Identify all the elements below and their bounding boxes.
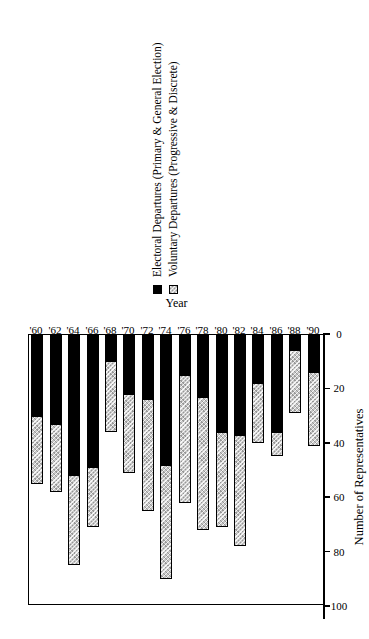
bar-group-86 [271, 334, 283, 639]
legend-swatch-hatch [169, 285, 178, 294]
bar-segment-electoral [197, 334, 209, 397]
bar-group-70 [123, 334, 135, 639]
legend-label-2: Voluntary Departures (Progressive & Disc… [167, 61, 179, 277]
bar-segment-voluntary [50, 424, 62, 492]
bar-segment-electoral [308, 334, 320, 372]
legend-swatch-black [153, 285, 162, 294]
bar-segment-electoral [87, 334, 99, 467]
bar-segment-voluntary [87, 467, 99, 527]
bar-segment-voluntary [197, 397, 209, 530]
bar-segment-voluntary [68, 475, 80, 565]
bar-group-84 [252, 334, 264, 639]
bar-group-80 [216, 334, 228, 639]
bar-group-90 [308, 334, 320, 639]
bar-segment-electoral [289, 334, 301, 350]
value-tick-label-0: 0 [326, 328, 352, 340]
bar-segment-voluntary [142, 399, 154, 511]
bar-segment-electoral [252, 334, 264, 383]
rotated-page-canvas: 020406080100 '60'62'64'66'68'70'72'74'76… [0, 0, 369, 639]
legend-item-2: Voluntary Departures (Progressive & Disc… [166, 64, 180, 294]
bar-segment-electoral [216, 334, 228, 432]
bar-segment-voluntary [123, 394, 135, 473]
bar-group-78 [197, 334, 209, 639]
bar-group-64 [68, 334, 80, 639]
bar-group-72 [142, 334, 154, 639]
legend-label-1: Electoral Departures (Primary & General … [151, 42, 163, 277]
legend-item-1: Electoral Departures (Primary & General … [150, 64, 164, 294]
bar-group-82 [234, 334, 246, 639]
bar-segment-electoral [50, 334, 62, 424]
bar-chart-figure: 020406080100 '60'62'64'66'68'70'72'74'76… [0, 0, 369, 639]
bar-segment-electoral [234, 334, 246, 435]
value-axis-title: Number of Representatives [352, 409, 367, 546]
value-tick-label-80: 80 [326, 546, 352, 558]
bar-segment-voluntary [308, 372, 320, 445]
value-tick-label-100: 100 [326, 600, 352, 612]
bar-segment-voluntary [160, 465, 172, 579]
bar-segment-electoral [68, 334, 80, 475]
bar-segment-voluntary [234, 435, 246, 547]
category-label-90: '90 [300, 324, 326, 336]
bar-segment-voluntary [179, 375, 191, 503]
bar-group-88 [289, 334, 301, 639]
bar-group-74 [160, 334, 172, 639]
bar-group-60 [31, 334, 43, 639]
value-tick-label-40: 40 [326, 437, 352, 449]
bar-segment-electoral [105, 334, 117, 361]
bar-segment-electoral [160, 334, 172, 465]
bar-segment-voluntary [289, 350, 301, 413]
bar-segment-voluntary [105, 361, 117, 432]
value-tick-label-20: 20 [326, 382, 352, 394]
bar-segment-electoral [31, 334, 43, 416]
chart-legend: Electoral Departures (Primary & General … [150, 64, 182, 294]
value-tick-label-60: 60 [326, 491, 352, 503]
bar-segment-electoral [123, 334, 135, 394]
category-axis-title: Year [156, 296, 196, 311]
bar-segment-voluntary [271, 432, 283, 456]
bar-segment-electoral [142, 334, 154, 399]
bar-group-76 [179, 334, 191, 639]
bar-segment-electoral [179, 334, 191, 375]
bar-segment-voluntary [252, 383, 264, 443]
bar-segment-voluntary [31, 416, 43, 484]
value-axis-line [323, 334, 325, 619]
bar-group-66 [87, 334, 99, 639]
bar-segment-voluntary [216, 432, 228, 527]
bar-group-62 [50, 334, 62, 639]
bar-group-68 [105, 334, 117, 639]
bar-segment-electoral [271, 334, 283, 432]
